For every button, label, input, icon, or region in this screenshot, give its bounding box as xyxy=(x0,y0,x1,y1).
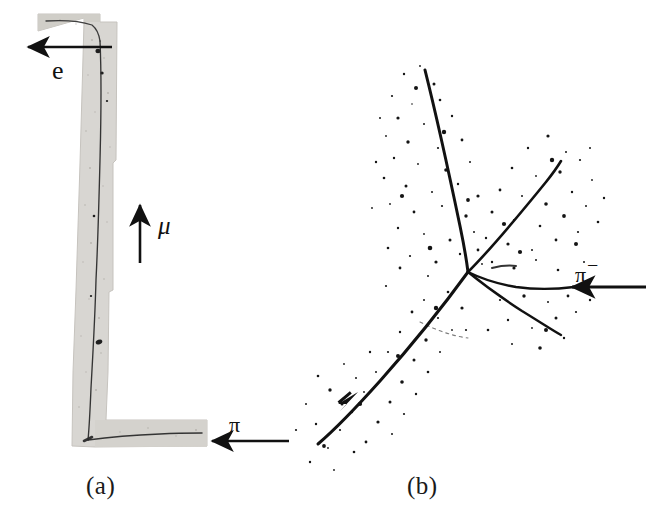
figure-canvas xyxy=(0,0,647,517)
particle-track-figure: e μ π π− (a) (b) xyxy=(0,0,647,517)
label-pion-minus-b: π− xyxy=(575,256,597,288)
label-electron: e xyxy=(52,56,64,86)
pion-glyph: π xyxy=(575,262,586,287)
panel-caption-b: (b) xyxy=(407,472,438,500)
pion-charge-superscript: − xyxy=(587,254,598,276)
label-pion-a: π xyxy=(229,412,240,438)
label-muon: μ xyxy=(158,212,171,240)
panel-caption-a: (a) xyxy=(86,472,115,500)
